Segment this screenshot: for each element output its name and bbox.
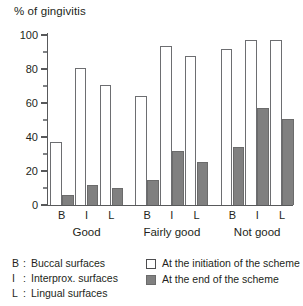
bar-end-B-6	[233, 147, 245, 205]
x-tick-label-0: B	[58, 209, 65, 221]
plot-area: 020406080100	[47, 35, 292, 205]
y-tick-label: 0	[32, 197, 38, 213]
bar-series-container	[47, 35, 292, 205]
x-group-label-2: Not good	[234, 226, 281, 238]
bar-end-I-1	[87, 185, 99, 205]
legend-key-row-L: L:Lingual surfaces	[12, 286, 142, 301]
bar-end-L-5	[197, 162, 209, 205]
bar-end-B-0	[62, 195, 74, 205]
legend-key-row-I: I:Interprox. surfaces	[12, 271, 142, 286]
filled-square-swatch-icon	[146, 275, 156, 285]
legend-key-row-B: B:Buccal surfaces	[12, 256, 142, 271]
legend-key-colon: :	[23, 271, 31, 286]
bar-initiation-I-4	[160, 46, 172, 205]
y-tick-label: 40	[26, 129, 38, 145]
y-tick-label: 20	[26, 163, 38, 179]
legend-key-colon: :	[23, 286, 31, 301]
legend-series-keys: At the initiation of the schemeAt the en…	[146, 256, 303, 288]
legend-key-text: Buccal surfaces	[31, 256, 142, 271]
legend-key-colon: :	[23, 256, 31, 271]
open-square-swatch-icon	[146, 259, 156, 269]
x-group-label-0: Good	[72, 226, 100, 238]
legend-key-text: Lingual surfaces	[31, 286, 142, 301]
y-tick-label: 60	[26, 95, 38, 111]
x-tick-label-3: B	[143, 209, 150, 221]
bar-initiation-B-6	[221, 49, 233, 205]
x-axis-tick-labels: BILBILBIL	[47, 207, 293, 227]
x-tick-label-2: L	[108, 209, 114, 221]
x-tick-label-4: I	[170, 209, 173, 221]
bar-end-B-3	[147, 180, 159, 206]
x-tick-label-7: I	[256, 209, 259, 221]
bar-end-L-2	[112, 188, 124, 205]
bar-initiation-I-1	[75, 68, 87, 205]
chart-legend: B:Buccal surfacesI:Interprox. surfacesL:…	[0, 256, 303, 306]
legend-series-label: At the end of the scheme	[162, 272, 303, 287]
bar-initiation-L-2	[100, 85, 112, 205]
y-tick-label: 80	[26, 61, 38, 77]
x-axis-group-labels: GoodFairly goodNot good	[47, 226, 293, 246]
bar-initiation-B-3	[135, 96, 147, 205]
legend-abbreviation-keys: B:Buccal surfacesI:Interprox. surfacesL:…	[12, 256, 142, 301]
legend-series-label: At the initiation of the scheme	[162, 256, 303, 271]
x-tick-label-1: I	[85, 209, 88, 221]
legend-series-row-0: At the initiation of the scheme	[146, 256, 303, 271]
chart-title: % of gingivitis	[14, 5, 86, 17]
legend-series-row-1: At the end of the scheme	[146, 272, 303, 287]
bar-end-L-8	[282, 119, 294, 205]
legend-key-abbr: L	[12, 286, 23, 301]
y-tick-label: 100	[20, 27, 38, 43]
bar-initiation-I-7	[245, 40, 257, 205]
bar-initiation-L-8	[270, 40, 282, 205]
bar-end-I-7	[257, 108, 269, 205]
legend-key-abbr: B	[12, 256, 23, 271]
legend-key-abbr: I	[12, 271, 23, 286]
bar-end-I-4	[172, 151, 184, 205]
bar-initiation-B-0	[50, 142, 62, 205]
bar-initiation-L-5	[185, 56, 197, 205]
x-group-label-1: Fairly good	[143, 226, 200, 238]
x-tick-label-5: L	[194, 209, 200, 221]
x-tick-label-6: B	[229, 209, 236, 221]
legend-key-text: Interprox. surfaces	[31, 271, 142, 286]
chart-figure: % of gingivitis 020406080100 BILBILBIL G…	[0, 0, 303, 306]
x-tick-label-8: L	[279, 209, 285, 221]
